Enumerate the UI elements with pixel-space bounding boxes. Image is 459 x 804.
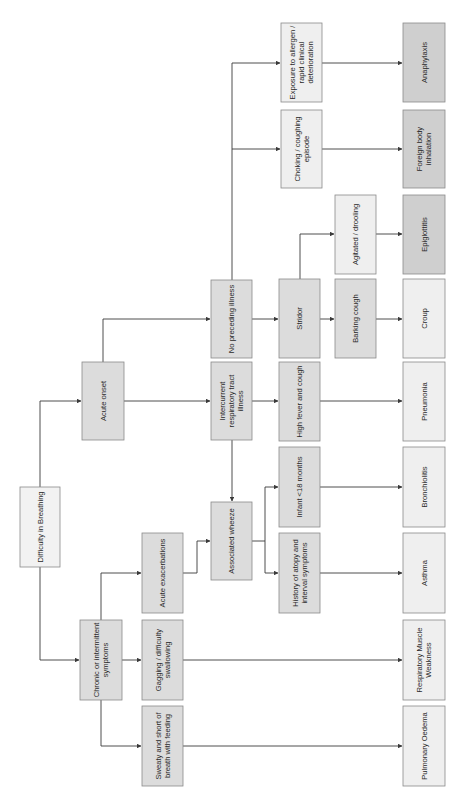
edge-chronic-acuteexac [101,573,141,620]
node-choking: Choking / coughingepisode [281,110,322,188]
node-epiglottitis: Epiglottitis [403,195,445,274]
node-label-line: No preceding illness [227,285,236,354]
node-pulm-oedema: Pulmonary Oedema [403,706,445,786]
node-label: Foreign bodyinhalation [415,127,433,172]
edge-stridor-agitated [300,234,334,279]
edge-root-chronic [40,567,79,660]
node-label: Pulmonary Oedema [420,711,429,779]
node-label: Difficulty in Breathing [36,491,45,562]
edge-nopreceding-up [232,63,280,280]
node-label-line: inhalation [424,133,433,166]
node-label-line: Stridor [295,307,304,330]
node-label: Barking cough [351,294,360,343]
node-label-line: rapid clinical [297,41,306,83]
edge-acute-nopreceding [103,319,210,362]
node-root: Difficulty in Breathing [20,487,60,567]
node-label: High fever and cough [295,365,304,437]
node-label-line: Respiratory Muscle [415,628,424,693]
node-label: Acute onset [99,380,108,421]
node-label-line: Exposure to allergen / [288,25,297,100]
node-label-line: Bronchiolitis [420,466,429,507]
node-agitated: Agitated / drooling [335,195,376,274]
edge-chronic-sweaty [101,700,141,746]
node-acute-exac: Acute exacerbations [142,533,183,613]
flowchart: Difficulty in BreathingChronic or interm… [0,0,459,804]
node-croup: Croup [403,279,445,358]
node-label-line: Anaphylaxis [420,42,429,83]
node-label-line: Foreign body [415,127,424,172]
node-label-line: respiratory tract [227,374,236,428]
node-exposure: Exposure to allergen /rapid clinicaldete… [281,23,322,102]
node-label-line: Pulmonary Oedema [420,711,429,779]
node-pneumonia: Pneumonia [403,362,445,441]
node-label-line: Asthma [420,559,429,586]
node-label: No preceding illness [227,285,236,354]
node-label-line: Associated wheeze [227,508,236,573]
node-intercurrent: Intercurrentrespiratory tractillness [211,362,252,440]
node-label-line: Barking cough [351,294,360,343]
node-label-line: Weakness [424,642,433,678]
node-resp-muscle: Respiratory MuscleWeakness [403,620,445,700]
node-barking: Barking cough [335,279,376,358]
node-sweaty: Sweaty and short ofbreath with feeding [142,706,183,786]
edge-wheeze-infant [265,487,278,541]
node-label-line: breath with feeding [163,714,172,778]
node-label: Acute exacerbations [158,538,167,607]
node-label-line: Sweaty and short of [154,712,163,780]
node-chronic: Chronic or intermittentsymptoms [80,620,122,700]
node-label-line: Gagging / difficulty [154,629,163,692]
node-label-line: Croup [420,308,429,329]
node-bronchiolitis: Bronchiolitis [403,447,445,527]
node-label-line: Intercurrent [218,381,227,421]
node-label-line: Difficulty in Breathing [36,491,45,562]
node-foreign-body: Foreign bodyinhalation [403,110,445,188]
node-label: Agitated / drooling [351,204,360,265]
node-label: Epiglottitis [420,217,429,252]
node-stridor: Stridor [279,279,320,358]
node-label-line: episode [302,136,311,163]
node-label-line: illness [236,390,245,411]
node-label-line: swallowing [163,642,172,679]
node-label-line: High fever and cough [295,365,304,437]
node-label: Croup [420,308,429,329]
node-history-atopy: History of atopy andinterval symptoms [279,533,320,613]
node-label-line: History of atopy and [291,539,300,607]
node-asthma: Asthma [403,533,445,613]
node-label: Stridor [295,307,304,330]
nodes: Difficulty in BreathingChronic or interm… [20,23,445,786]
node-label: Pneumonia [420,382,429,421]
node-label-line: deterioration [306,41,315,83]
node-gagging: Gagging / difficultyswallowing [142,620,183,700]
node-label-line: Pneumonia [420,382,429,421]
edge-acuteexac-wheeze [183,541,210,573]
node-acute-onset: Acute onset [82,362,124,440]
node-label-line: interval symptoms [300,542,309,603]
node-label-line: Epiglottitis [420,217,429,252]
node-label-line: Acute onset [99,380,108,421]
node-label-line: Chronic or intermittent [92,622,101,698]
node-label: Anaphylaxis [420,42,429,83]
node-label: Infant <18 months [295,456,304,517]
node-anaphylaxis: Anaphylaxis [403,23,445,102]
node-label: Sweaty and short ofbreath with feeding [154,712,172,780]
node-label-line: Choking / coughing [293,116,302,181]
node-infant: Infant <18 months [279,447,320,527]
node-label-line: Acute exacerbations [158,538,167,607]
node-label: Associated wheeze [227,508,236,573]
node-label-line: symptoms [101,643,110,678]
node-assoc-wheeze: Associated wheeze [211,502,252,580]
edge-wheeze-history [252,541,278,573]
node-label-line: Infant <18 months [295,456,304,517]
node-no-preceding: No preceding illness [211,280,252,358]
node-label-line: Agitated / drooling [351,204,360,265]
node-label: Bronchiolitis [420,466,429,507]
node-high-fever: High fever and cough [279,362,320,441]
node-label: History of atopy andinterval symptoms [291,539,309,607]
node-label: Asthma [420,559,429,586]
edge-root-acute [40,401,81,487]
